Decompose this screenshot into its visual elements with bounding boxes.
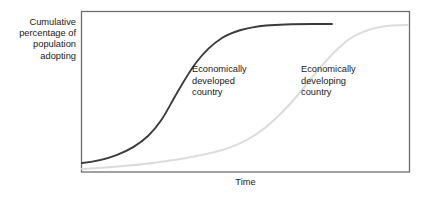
x-axis-label: Time	[81, 177, 410, 188]
y-axis-label: Cumulative percentage of population adop…	[2, 17, 76, 62]
annotation-economically-developing-country: Economically developing country	[301, 64, 381, 99]
diffusion-curve-figure: Cumulative percentage of population adop…	[0, 0, 424, 201]
annotation-economically-developed-country: Economically developed country	[192, 64, 270, 99]
